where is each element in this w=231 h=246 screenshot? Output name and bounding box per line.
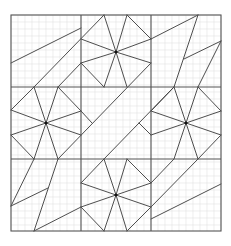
tessellation-diagram — [0, 0, 231, 246]
diagram-canvas — [0, 0, 231, 246]
